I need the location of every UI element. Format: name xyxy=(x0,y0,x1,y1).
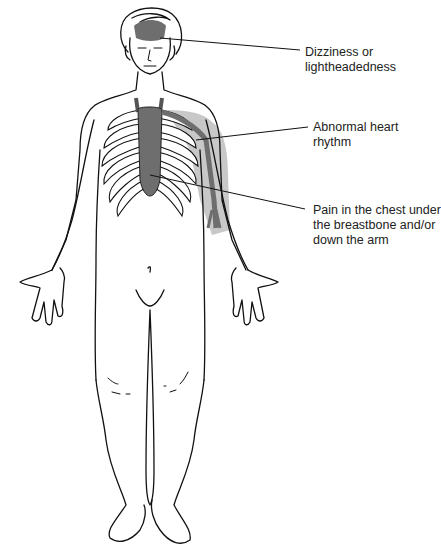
head xyxy=(121,8,182,74)
label-pain: Pain in the chest under the breastbone a… xyxy=(313,203,441,248)
label-dizziness-line-2: lightheadedness xyxy=(305,60,396,75)
label-pain-line-1: Pain in the chest under xyxy=(313,203,441,218)
label-dizziness-line-1: Dizziness or xyxy=(305,45,396,60)
label-rhythm-line-2: rhythm xyxy=(313,135,398,150)
label-dizziness: Dizziness or lightheadedness xyxy=(305,45,396,75)
legs xyxy=(96,310,204,543)
right-hand xyxy=(20,268,65,325)
label-pain-line-2: the breastbone and/or xyxy=(313,218,441,233)
label-rhythm-line-1: Abnormal heart xyxy=(313,120,398,135)
left-hand xyxy=(231,268,278,325)
label-rhythm: Abnormal heart rhythm xyxy=(313,120,398,150)
label-pain-line-3: down the arm xyxy=(313,233,441,248)
